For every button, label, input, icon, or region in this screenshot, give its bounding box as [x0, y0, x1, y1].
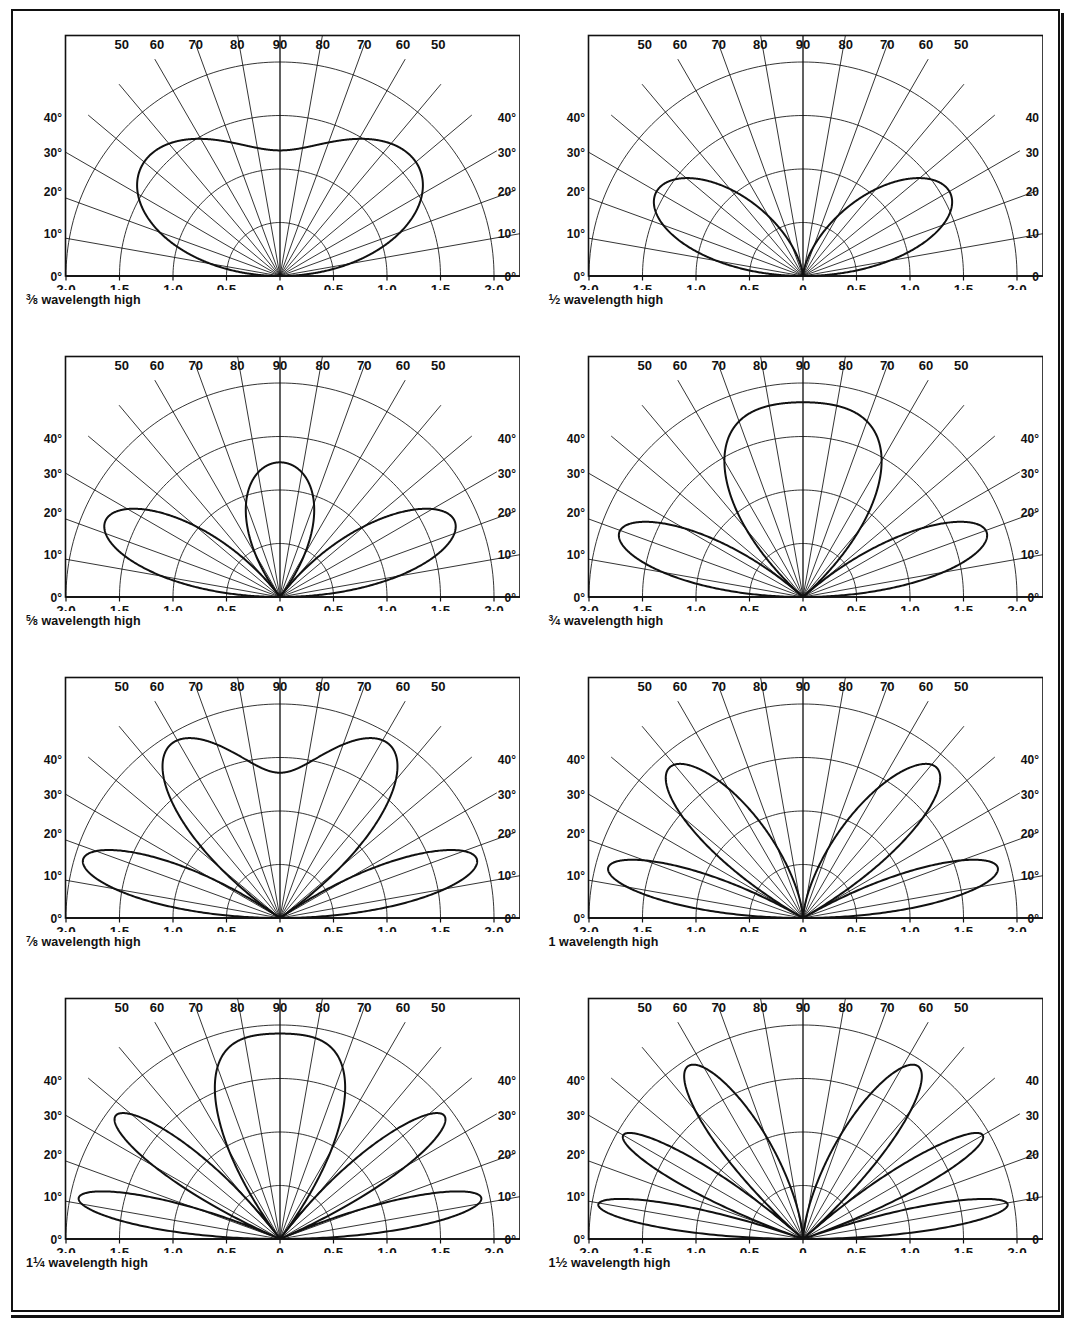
elevation-label: 10°: [44, 1190, 62, 1204]
elevation-label: 80: [316, 358, 330, 373]
x-axis-tick-label: 1·0: [163, 1245, 183, 1254]
elevation-label: 80: [753, 358, 767, 373]
grid-spoke: [280, 84, 441, 276]
elevation-label: 20°: [44, 506, 62, 520]
elevation-label: 10°: [566, 869, 584, 883]
x-axis-tick-label: 1·5: [110, 282, 130, 291]
elevation-labels-left: 0°10°20°30°40°: [44, 432, 62, 604]
elevation-label: 0°: [505, 270, 517, 284]
grid-spoke: [803, 511, 1038, 597]
elevation-label: 60: [672, 358, 686, 373]
elevation-label: 50: [431, 1000, 445, 1015]
elevation-label: 0°: [505, 591, 517, 605]
elevation-label: 50: [637, 358, 651, 373]
elevation-label: 60: [396, 358, 410, 373]
elevation-label: 50: [637, 679, 651, 694]
elevation-labels-right: 0°10°20°30°40°: [498, 1074, 516, 1246]
panel-caption: 11⁄4 wavelength high: [26, 1256, 533, 1270]
elevation-label: 20°: [1020, 506, 1038, 520]
x-axis-tick-label: 1·5: [953, 603, 973, 612]
elevation-label: 20: [1025, 1148, 1039, 1162]
x-axis-tick-label: 1·0: [686, 1245, 706, 1254]
elevation-label: 70: [357, 358, 371, 373]
elevation-label: 50: [637, 1000, 651, 1015]
elevation-label: 0: [1032, 1233, 1039, 1247]
elevation-labels-left: 0°10°20°30°40°: [44, 753, 62, 925]
pattern-lobe: [608, 764, 803, 918]
x-axis: 2·01·51·00·500·51·01·52·0: [579, 597, 1027, 611]
elevation-label: 30°: [498, 467, 516, 481]
elevation-label: 50: [431, 37, 445, 52]
plot-area: 2·01·51·00·500·51·01·52·00°10°20°30°40°0…: [545, 981, 1056, 1253]
elevation-label: 50: [431, 358, 445, 373]
elevation-label: 10: [1025, 227, 1039, 241]
grid-spoke: [280, 362, 366, 597]
x-axis-tick-label: 2·0: [1007, 924, 1027, 933]
elevation-label: 60: [150, 358, 164, 373]
elevation-label: 0°: [51, 591, 63, 605]
radiation-pattern-panel: 2·01·51·00·500·51·01·52·00°10°20°30°40°0…: [545, 981, 1056, 1302]
elevation-label: 40°: [498, 432, 516, 446]
elevation-label: 80: [316, 1000, 330, 1015]
grid-spoke: [88, 1078, 280, 1239]
x-axis-tick-label: 1·0: [377, 282, 397, 291]
grid-spoke: [119, 84, 280, 276]
elevation-label: 60: [396, 679, 410, 694]
plot-area: 2·01·51·00·500·51·01·52·00°10°20°30°40°0…: [545, 18, 1056, 290]
elevation-label: 40: [1025, 1074, 1039, 1088]
x-axis-tick-label: 1·0: [163, 282, 183, 291]
x-axis-tick-label: 2·0: [484, 924, 504, 933]
panel-caption: 3⁄8 wavelength high: [26, 293, 533, 307]
grid-spoke: [194, 41, 280, 276]
polar-grid: [589, 999, 1043, 1239]
panel-caption: 3⁄4 wavelength high: [549, 614, 1056, 628]
elevation-labels-top: 506070809080706050: [115, 358, 446, 373]
elevation-label: 70: [189, 1000, 203, 1015]
x-axis: 2·01·51·00·500·51·01·52·0: [579, 276, 1027, 290]
elevation-label: 60: [918, 358, 932, 373]
x-axis-tick-label: 0·5: [846, 1245, 866, 1254]
elevation-label: 40°: [498, 111, 516, 125]
elevation-label: 10°: [498, 1190, 516, 1204]
elevation-labels-right: 0°10°20°30°40°: [498, 753, 516, 925]
grid-spoke: [66, 198, 280, 276]
elevation-label: 90: [273, 679, 287, 694]
elevation-label: 40°: [566, 111, 584, 125]
x-axis-tick-label: 2·0: [484, 282, 504, 291]
elevation-label: 0°: [573, 591, 585, 605]
radiation-pattern-panel: 2·01·51·00·500·51·01·52·00°10°20°30°40°0…: [22, 660, 533, 981]
elevation-label: 50: [115, 37, 129, 52]
elevation-label: 30°: [44, 1109, 62, 1123]
elevation-labels-top: 506070809080706050: [115, 1000, 446, 1015]
x-axis-tick-label: 0·5: [324, 924, 344, 933]
elevation-labels-left: 0°10°20°30°40°: [566, 753, 584, 925]
panel-caption: 1⁄2 wavelength high: [549, 293, 1056, 307]
elevation-labels-top: 506070809080706050: [637, 37, 968, 52]
x-axis-tick-label: 1·0: [377, 1245, 397, 1254]
x-axis-tick-label: 1·0: [900, 603, 920, 612]
grid-spoke: [803, 362, 889, 597]
elevation-label: 10°: [1020, 869, 1038, 883]
plot-area: 2·01·51·00·500·51·01·52·00°10°20°30°40°0…: [22, 660, 533, 932]
figure-page: 2·01·51·00·500·51·01·52·00°10°20°30°40°0…: [0, 0, 1071, 1336]
grid-spoke: [194, 362, 280, 597]
elevation-label: 20°: [44, 185, 62, 199]
elevation-label: 20°: [498, 185, 516, 199]
elevation-label: 80: [230, 1000, 244, 1015]
x-axis-tick-label: 0·5: [324, 282, 344, 291]
elevation-label: 90: [273, 37, 287, 52]
x-axis: 2·01·51·00·500·51·01·52·0: [56, 1239, 504, 1253]
x-axis-tick-label: 0·5: [739, 282, 759, 291]
grid-spoke: [611, 757, 803, 918]
elevation-label: 50: [953, 37, 967, 52]
grid-spoke: [803, 405, 964, 597]
elevation-label: 20°: [498, 506, 516, 520]
grid-spoke: [611, 115, 803, 276]
grid-spoke: [803, 757, 995, 918]
plot-area: 2·01·51·00·500·51·01·52·00°10°20°30°40°0…: [22, 339, 533, 611]
x-axis: 2·01·51·00·500·51·01·52·0: [579, 918, 1027, 932]
elevation-label: 10°: [566, 548, 584, 562]
grid-spoke: [280, 436, 472, 597]
x-axis-tick-label: 0: [799, 924, 807, 933]
x-axis-tick-label: 1·5: [953, 1245, 973, 1254]
